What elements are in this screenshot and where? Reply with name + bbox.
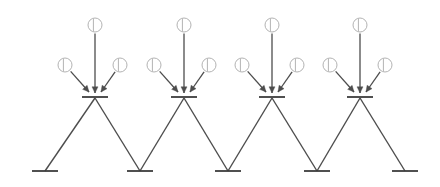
diagram-canvas [0, 0, 440, 187]
truss-diagram-svg [0, 0, 440, 187]
